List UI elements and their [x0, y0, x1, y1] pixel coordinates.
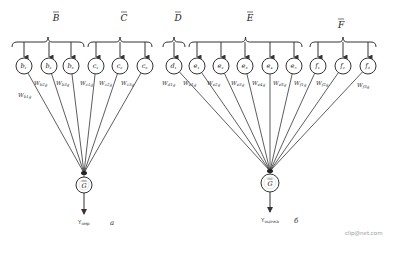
weight-label-c2g: Wc2g — [99, 80, 113, 87]
node-label: e₅ — [291, 62, 297, 70]
watermark: clip@net.com — [345, 230, 383, 237]
node-label: c₂ — [117, 62, 123, 70]
weighted-edge — [270, 73, 338, 171]
node-label: c₃ — [142, 62, 148, 70]
weighted-edge — [224, 73, 270, 171]
output-label: Yомр — [77, 219, 90, 226]
node-label: e₃ — [242, 62, 248, 70]
node-label: e₁ — [194, 62, 200, 70]
weight-label-c3g: Wc3g — [121, 80, 135, 87]
weight-label-e2g: We2g — [207, 80, 221, 87]
group-label-b: B — [52, 13, 60, 23]
node-label: e₂ — [218, 62, 224, 70]
node-label: d₁ — [170, 62, 176, 70]
weighted-edge — [270, 74, 292, 171]
weight-label-e1g: We1g — [183, 80, 197, 87]
panel-label-a: а — [110, 219, 114, 227]
weight-label-d1g: Wd1g — [162, 80, 176, 87]
weight-label-f2g: Wf2g — [316, 80, 329, 87]
weighted-edge — [247, 74, 270, 171]
node-label: f₂ — [339, 62, 344, 70]
node-label: b₃ — [67, 62, 73, 70]
edges-layer — [28, 72, 363, 214]
weight-label-b1g: Wb1g — [18, 92, 32, 99]
node-label: b₁ — [20, 62, 26, 70]
weight-label-f3g: Wf3g — [357, 82, 370, 89]
panel-label-b: б — [294, 217, 299, 225]
node-label: f₁ — [314, 62, 319, 70]
target-label: G — [81, 182, 86, 190]
weight-label-e4g: We4g — [252, 80, 266, 87]
group-label-d: D — [173, 13, 181, 23]
weighted-edge — [202, 73, 270, 171]
output-label: Yоцінка — [260, 217, 279, 224]
nodes-layer: b₁b₂b₃c₁c₂c₃Gd₁e₁e₂e₃e₄e₅f₁f₂f₃G — [16, 58, 376, 193]
weight-label-e5g: We5g — [273, 80, 287, 87]
weighted-edge — [270, 73, 315, 171]
node-label: f₃ — [364, 62, 369, 70]
braces-layer — [12, 37, 376, 57]
group-label-c: C — [121, 13, 128, 23]
target-label: G — [267, 180, 272, 188]
node-label: b₂ — [45, 62, 51, 70]
weight-label-b2g: Wb2g — [34, 80, 48, 87]
aggregation-diagram: b₁b₂b₃c₁c₂c₃Gd₁e₁e₂e₃e₄e₅f₁f₂f₃G BWb1gWb… — [0, 0, 398, 253]
node-label: e₄ — [267, 62, 273, 70]
node-label: c₁ — [93, 62, 99, 70]
group-label-f: F — [337, 20, 345, 30]
weight-label-f1g: Wf1g — [294, 80, 307, 87]
weight-label-b3g: Wb3g — [56, 80, 70, 87]
weight-label-e3g: We3g — [231, 80, 245, 87]
weighted-edge — [84, 74, 95, 173]
weighted-edge — [72, 74, 84, 173]
group-label-e: E — [246, 13, 254, 23]
weight-label-c1g: Wc1g — [80, 80, 94, 87]
group-brace-b — [12, 37, 84, 47]
